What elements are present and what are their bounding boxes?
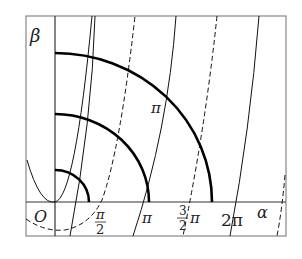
- frame: [26, 16, 286, 236]
- diagram: β O α π 2 π 3 2 π 2π π: [0, 0, 302, 259]
- diagram-canvas: β O α π 2 π 3 2 π 2π π: [0, 0, 302, 259]
- dashed-line-3: [277, 175, 285, 236]
- tick-three-half-denominator: 2: [179, 219, 187, 233]
- solid-line-2: [133, 16, 176, 236]
- dashed-line-2: [183, 16, 217, 236]
- solid-line-3: [230, 16, 259, 236]
- alpha-label: α: [257, 203, 268, 222]
- tick-three-half-numerator: 3: [179, 204, 187, 218]
- big-arc-pi-label: π: [150, 99, 162, 117]
- tick-two-pi-label: 2π: [221, 210, 243, 230]
- beta-label: β: [29, 25, 40, 46]
- arc-small: [55, 170, 89, 202]
- tick-half-pi-denominator: 2: [96, 222, 104, 237]
- dashed-curve-1: [26, 16, 135, 230]
- tick-pi-label: π: [141, 209, 153, 227]
- tick-half-pi-numerator: π: [95, 207, 105, 222]
- origin-label: O: [34, 207, 47, 226]
- arc-medium: [55, 114, 149, 202]
- tick-three-half-suffix: π: [189, 209, 201, 227]
- solid-line-1: [70, 16, 95, 236]
